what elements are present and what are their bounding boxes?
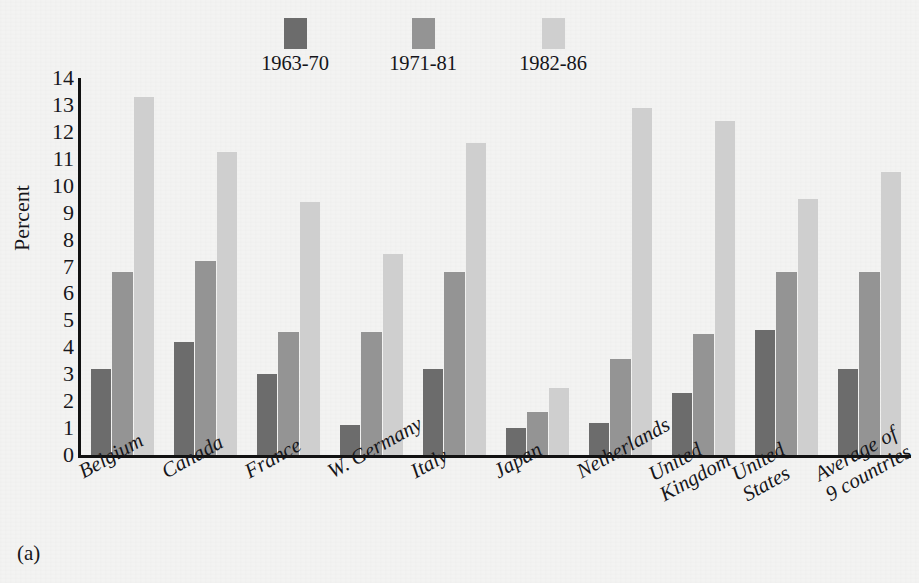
bar: [300, 202, 321, 455]
bar: [444, 272, 465, 455]
bar: [632, 108, 653, 455]
y-tick-label: 11: [30, 148, 74, 170]
y-tick-label: 8: [30, 229, 74, 251]
bar: [112, 272, 133, 455]
bar: [217, 152, 238, 455]
figure-panel: 1963-70 1971-81 1982-86 1413121110987654…: [0, 0, 919, 583]
legend-item-1963-70: 1963-70: [236, 18, 354, 75]
bar: [195, 261, 216, 455]
legend-item-1982-86: 1982-86: [494, 18, 612, 75]
legend-item-1971-81: 1971-81: [364, 18, 482, 75]
y-tick-label: 3: [30, 363, 74, 385]
legend-label-1971-81: 1971-81: [364, 52, 482, 75]
legend-label-1982-86: 1982-86: [494, 52, 612, 75]
y-tick-label: 5: [30, 309, 74, 331]
legend-swatch-1971-81: [412, 18, 435, 49]
bar: [715, 121, 736, 455]
y-tick-label: 1: [30, 417, 74, 439]
bar: [776, 272, 797, 455]
y-tick-label: 10: [30, 175, 74, 197]
y-tick-label: 2: [30, 390, 74, 412]
y-axis-title: Percent: [9, 148, 35, 288]
bar: [423, 369, 444, 455]
bar: [549, 388, 570, 455]
chart-legend: 1963-70 1971-81 1982-86: [236, 18, 656, 74]
legend-label-1963-70: 1963-70: [236, 52, 354, 75]
legend-swatch-1982-86: [542, 18, 565, 49]
y-tick-label: 0: [30, 444, 74, 466]
x-axis-category-labels: BelgiumCanadaFranceW. GermanyItalyJapanN…: [78, 458, 919, 583]
y-tick-label: 13: [30, 94, 74, 116]
y-axis-tick-labels: 14131211109876543210: [30, 78, 74, 456]
bar: [881, 172, 902, 455]
bar: [174, 342, 195, 455]
panel-caption: (a): [17, 541, 40, 566]
bar: [466, 143, 487, 455]
y-tick-label: 9: [30, 202, 74, 224]
bar: [755, 330, 776, 455]
y-tick-label: 12: [30, 121, 74, 143]
y-tick-label: 14: [30, 67, 74, 89]
y-tick-label: 4: [30, 336, 74, 358]
legend-swatch-1963-70: [284, 18, 307, 49]
bars-layer: [81, 78, 911, 455]
y-tick-label: 7: [30, 256, 74, 278]
plot-area: [78, 78, 911, 455]
y-tick-label: 6: [30, 282, 74, 304]
bar: [798, 199, 819, 455]
bar: [134, 97, 155, 455]
